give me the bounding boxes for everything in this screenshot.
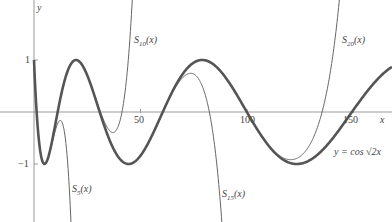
plot-area [0,0,392,222]
x-tick-50: 50 [134,114,144,125]
x-tick-100: 100 [240,114,255,125]
s20-label: S20(x) [342,34,365,48]
s5-label: S5(x) [72,183,92,197]
y-tick-minus-1: −1 [18,158,29,169]
chart: y x 1 −1 50 100 150 S5(x) S10(x) S15(x) … [0,0,392,222]
function-label: y = cos √2x [334,146,381,157]
s10-label: S10(x) [134,34,157,48]
x-axis-label: x [380,114,384,125]
y-tick-1: 1 [25,54,30,65]
y-axis-label: y [37,2,41,13]
x-tick-150: 150 [343,114,358,125]
s15-label: S15(x) [222,188,245,202]
